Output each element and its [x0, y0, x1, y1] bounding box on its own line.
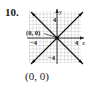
origin-point — [55, 36, 59, 40]
y-tick-neg-4: −4 — [48, 54, 56, 61]
x-axis-label: x — [81, 39, 85, 46]
answer-caption: (0, 0) — [25, 70, 49, 82]
x-tick-neg-4: −4 — [30, 39, 38, 46]
y-axis-label: y — [58, 8, 62, 15]
point-label: (0, 0) — [26, 29, 40, 37]
